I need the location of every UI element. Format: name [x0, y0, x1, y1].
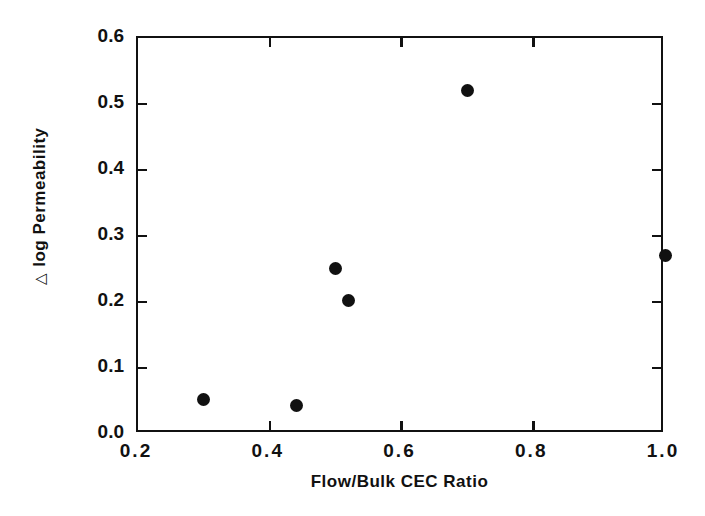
y-tick-0.1 [138, 367, 147, 370]
y-tick-0.4 [138, 169, 147, 172]
data-point [659, 249, 672, 262]
x-tick-0.6 [400, 421, 403, 430]
y-tick-label-0.3: 0.3 [0, 223, 124, 245]
x-tick-0.8 [532, 421, 535, 430]
y-tick-label-0.0: 0.0 [0, 421, 124, 443]
y-tick-label-0.6: 0.6 [0, 25, 124, 47]
y-tick-right-0.1 [652, 367, 661, 370]
x-tick-top-0.4 [269, 38, 272, 47]
data-point [290, 399, 303, 412]
y-tick-right-0.3 [652, 235, 661, 238]
x-tick-label-0.8: 0.8 [515, 440, 547, 462]
x-tick-0.4 [269, 421, 272, 430]
delta-symbol: △ [31, 272, 48, 285]
x-tick-label-0.4: 0.4 [252, 440, 284, 462]
y-tick-0.3 [138, 235, 147, 238]
y-axis-title-text: log Permeability [30, 127, 49, 266]
y-tick-right-0.4 [652, 169, 661, 172]
y-tick-right-0.2 [652, 301, 661, 304]
x-tick-label-1.0: 1.0 [647, 440, 679, 462]
y-tick-0.2 [138, 301, 147, 304]
plot-area [138, 38, 661, 430]
y-tick-label-0.4: 0.4 [0, 157, 124, 179]
x-tick-label-0.6: 0.6 [383, 440, 415, 462]
data-point [461, 84, 474, 97]
x-tick-top-0.8 [532, 38, 535, 47]
data-point [329, 262, 342, 275]
y-tick-label-0.2: 0.2 [0, 289, 124, 311]
y-axis-tick-labels: 0.00.10.20.30.40.50.6 [0, 0, 124, 516]
scatter-chart-figure: 0.00.10.20.30.40.50.6 0.20.40.60.81.0 Fl… [0, 0, 705, 516]
y-axis-title: △ log Permeability [30, 0, 50, 416]
plot-frame [136, 36, 663, 432]
data-point [197, 393, 210, 406]
y-tick-right-0.5 [652, 103, 661, 106]
data-point [342, 294, 355, 307]
x-tick-top-0.6 [400, 38, 403, 47]
y-tick-label-0.5: 0.5 [0, 91, 124, 113]
x-tick-label-0.2: 0.2 [120, 440, 152, 462]
y-tick-label-0.1: 0.1 [0, 355, 124, 377]
y-tick-0.5 [138, 103, 147, 106]
x-axis-title: Flow/Bulk CEC Ratio [136, 472, 663, 492]
